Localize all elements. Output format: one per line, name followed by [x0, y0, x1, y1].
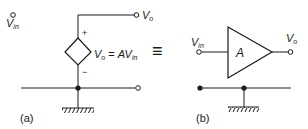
caption-b: (b) [196, 112, 209, 124]
ground-icon-b [228, 107, 259, 112]
input-label-a: Vin [6, 17, 19, 30]
input-terminal-b [197, 50, 202, 55]
amplifier-triangle [228, 27, 272, 78]
output-label-a: Vo [142, 9, 153, 22]
common-terminal-a [136, 86, 141, 91]
output-label-b: Vo [286, 32, 297, 45]
minus-sign: − [82, 67, 87, 77]
source-equation: Vo = AVin [94, 48, 137, 61]
circuit-diagram: Vin Vo + − Vo = AVin (a) ≡ Vin A Vo [0, 0, 308, 129]
plus-sign: + [82, 28, 87, 38]
dependent-source-diamond [65, 38, 91, 65]
output-terminal-b [288, 50, 293, 55]
figure-b-amplifier-symbol: Vin A Vo (b) [191, 27, 297, 124]
output-terminal-a [134, 13, 139, 18]
caption-a: (a) [20, 112, 33, 124]
ground-icon-a [62, 108, 94, 113]
input-label-b: Vin [191, 36, 204, 49]
junction-dot-a [75, 85, 80, 90]
equivalence-symbol: ≡ [152, 41, 163, 61]
amplifier-gain-label: A [235, 46, 244, 60]
common-terminal-b [197, 85, 202, 90]
figure-a-voltage-controlled-source: Vin Vo + − Vo = AVin (a) [6, 9, 153, 124]
